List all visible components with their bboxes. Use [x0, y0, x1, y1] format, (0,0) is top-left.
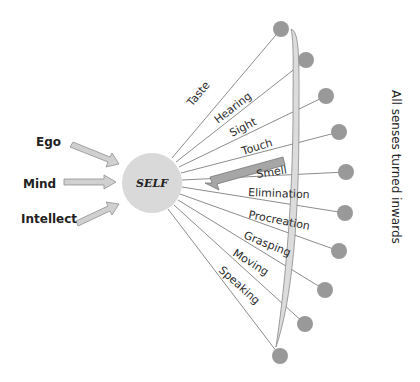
node-sight — [318, 88, 334, 104]
node-elimination — [337, 205, 353, 221]
node-grasping — [317, 282, 333, 298]
node-hearing — [298, 52, 314, 68]
input-label-ego: Ego — [36, 135, 61, 149]
diagram-canvas: SELF Ego Mind Intellect Taste Hearing Si… — [0, 0, 420, 382]
caption-vertical: All senses turned inwards — [389, 90, 403, 244]
node-moving — [297, 316, 313, 332]
ego-arrow-icon — [70, 142, 119, 167]
node-touch — [331, 124, 347, 140]
sense-label-touch: Touch — [239, 136, 274, 158]
mind-arrow-icon — [64, 175, 116, 189]
node-procreation — [331, 243, 347, 259]
input-label-mind: Mind — [23, 177, 56, 191]
input-label-intellect: Intellect — [21, 212, 77, 226]
intellect-arrow-icon — [76, 202, 119, 226]
node-smell — [338, 164, 354, 180]
node-speaking — [272, 348, 288, 364]
self-label: SELF — [136, 177, 169, 190]
sense-label-taste: Taste — [184, 79, 213, 110]
node-taste — [273, 21, 289, 37]
sense-label-elimination: Elimination — [248, 186, 310, 201]
